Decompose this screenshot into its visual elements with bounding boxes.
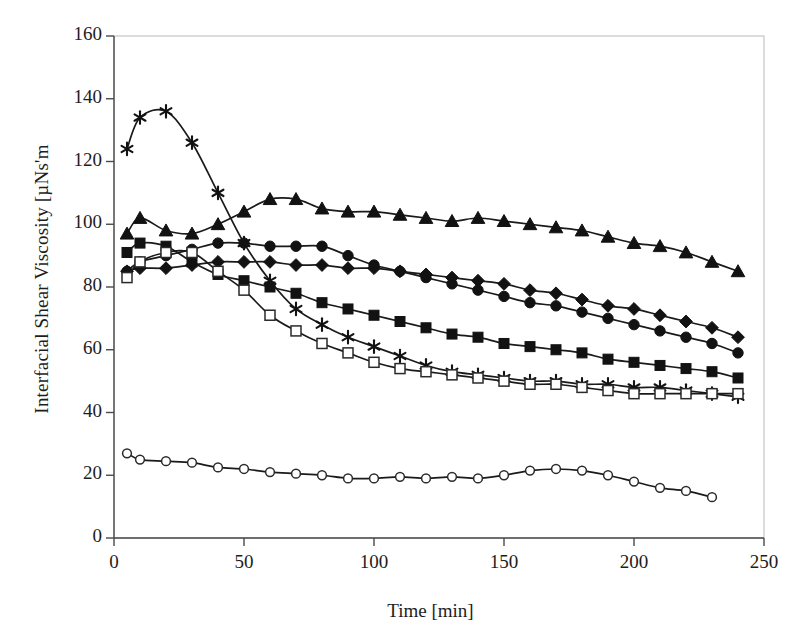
data-point-square [291,288,301,298]
data-point-open-circle [422,474,431,483]
data-point-diamond [316,259,329,272]
data-point-open-square [551,379,561,389]
data-point-diamond [550,287,563,300]
data-point-square [447,329,457,339]
series-line-open-circle [127,453,712,497]
data-point-circle [655,326,665,336]
data-point-diamond [680,315,693,328]
data-point-circle [499,291,509,301]
data-point-square [395,317,405,327]
data-point-open-circle [266,468,275,477]
data-point-circle [525,297,535,307]
data-point-diamond [290,259,303,272]
data-point-open-square [265,310,275,320]
data-point-square [499,338,509,348]
data-point-square [317,298,327,308]
data-point-asterisk [161,105,172,118]
data-point-diamond [654,309,667,322]
data-point-open-circle [214,463,223,472]
data-point-open-square [135,257,145,267]
data-point-square [629,357,639,367]
data-point-circle [291,241,301,251]
data-point-open-circle [188,458,197,467]
data-point-triangle [237,205,251,217]
series-group [120,105,745,502]
data-point-diamond [706,321,719,334]
data-point-square [603,354,613,364]
data-point-open-circle [708,493,717,502]
data-point-open-circle [604,471,613,480]
data-point-asterisk [213,187,224,200]
data-point-open-square [239,285,249,295]
data-point-diamond [394,265,407,278]
data-point-open-circle [396,472,405,481]
data-point-open-square [629,389,639,399]
series-line-asterisk [127,110,738,397]
data-point-diamond [264,256,277,269]
series-star-series [122,105,744,403]
data-point-open-circle [578,466,587,475]
data-point-square [369,310,379,320]
data-point-open-square [577,382,587,392]
data-point-diamond [160,262,173,275]
data-point-diamond [498,277,511,290]
data-point-open-square [603,386,613,396]
data-point-asterisk [395,350,406,363]
plot-border [114,36,764,538]
data-point-open-circle [448,472,457,481]
data-point-open-square [343,348,353,358]
data-point-triangle [159,224,173,236]
data-point-square [239,276,249,286]
data-point-diamond [342,262,355,275]
data-point-diamond [602,299,615,312]
data-point-circle [551,301,561,311]
data-point-asterisk [343,331,354,344]
data-point-open-square [122,273,132,283]
data-point-open-circle [162,457,171,466]
data-point-open-circle [500,471,509,480]
data-point-square [655,360,665,370]
series-open-circle-series [123,449,717,502]
data-point-open-square [473,373,483,383]
data-point-square [343,304,353,314]
data-point-open-square [369,357,379,367]
data-point-square [135,238,145,248]
data-point-circle [733,348,743,358]
data-point-open-square [525,379,535,389]
data-point-open-square [291,326,301,336]
data-point-triangle [211,218,225,230]
data-point-triangle [731,265,745,277]
data-point-circle [681,332,691,342]
data-point-open-circle [682,487,691,496]
data-point-open-square [499,376,509,386]
data-point-square [577,348,587,358]
data-point-circle [343,250,353,260]
data-point-open-square [317,338,327,348]
data-point-open-circle [318,471,327,480]
data-point-square [187,257,197,267]
plot-area [0,0,801,642]
data-point-open-square [187,247,197,257]
data-point-square [525,342,535,352]
data-point-open-square [447,370,457,380]
data-point-open-circle [370,474,379,483]
data-point-circle [603,313,613,323]
data-point-asterisk [369,340,380,353]
data-point-square [551,345,561,355]
data-point-circle [239,238,249,248]
series-filled-circle-series [122,238,743,358]
data-point-asterisk [317,318,328,331]
data-point-open-square [161,247,171,257]
data-point-open-circle [526,466,535,475]
data-point-square [707,367,717,377]
data-point-circle [577,307,587,317]
data-point-triangle [133,211,147,223]
data-point-triangle [120,227,134,239]
data-point-square [421,323,431,333]
data-point-open-circle [474,474,483,483]
data-point-open-square [395,364,405,374]
data-point-triangle [705,255,719,267]
data-point-circle [707,338,717,348]
axes-group [106,36,764,546]
data-point-circle [317,241,327,251]
